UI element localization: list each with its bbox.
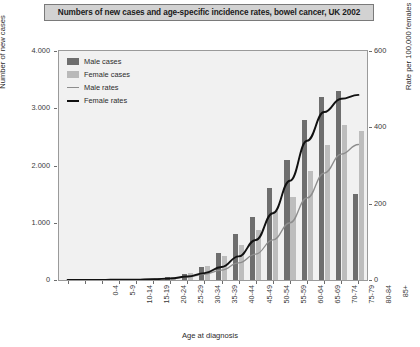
legend-line-female-rates-icon <box>67 100 79 102</box>
x-tick-mark <box>358 281 359 284</box>
x-tick-mark <box>119 281 120 284</box>
x-tick-mark <box>273 281 274 284</box>
legend-swatch-female-cases-icon <box>67 71 79 78</box>
chart-root: Numbers of new cases and age-specific in… <box>0 0 420 347</box>
x-tick-mark <box>256 281 257 284</box>
x-tick-label: 50-54 <box>282 285 291 325</box>
bar-male-cases <box>302 120 307 280</box>
x-tick-label: 30-34 <box>213 285 222 325</box>
x-tick-label: 60-64 <box>316 285 325 325</box>
chart-legend: Male cases Female cases Male rates Femal… <box>67 56 130 108</box>
y-tick-left: 4.000 <box>16 46 50 55</box>
plot-area: Male cases Female cases Male rates Femal… <box>58 50 368 281</box>
x-tick-mark <box>222 281 223 284</box>
chart-title: Numbers of new cases and age-specific in… <box>58 8 360 17</box>
bar-male-cases <box>319 97 324 280</box>
x-tick-label: 55-59 <box>299 285 308 325</box>
bar-male-cases <box>336 91 341 280</box>
bar-female-cases <box>239 245 244 280</box>
x-tick-label: 40-44 <box>247 285 256 325</box>
legend-item-female-rates: Female rates <box>67 95 130 106</box>
x-tick-label: 0-4 <box>111 285 120 325</box>
bar-female-cases <box>359 131 364 280</box>
x-tick-label: 65-69 <box>333 285 342 325</box>
x-tick-label: 20-24 <box>179 285 188 325</box>
bar-male-cases <box>267 188 272 280</box>
y-tick-mark-right <box>369 127 372 128</box>
y-tick-mark-right <box>369 51 372 52</box>
y-tick-mark-left <box>54 166 57 167</box>
line-male-rates <box>68 145 359 280</box>
legend-label-male-cases: Male cases <box>84 57 121 66</box>
bar-female-cases <box>205 266 210 280</box>
bar-male-cases <box>130 279 135 280</box>
x-tick-label: 80-84 <box>384 285 393 325</box>
x-tick-mark <box>324 281 325 284</box>
bar-male-cases <box>216 253 221 280</box>
x-tick-label: 85+ <box>401 285 410 325</box>
x-tick-mark <box>170 281 171 284</box>
bar-male-cases <box>284 160 289 280</box>
y-tick-right: 600 <box>374 46 400 55</box>
x-tick-label: 25-29 <box>196 285 205 325</box>
bar-female-cases <box>325 145 330 280</box>
bar-female-cases <box>222 256 227 280</box>
x-tick-mark <box>204 281 205 284</box>
bar-female-cases <box>171 277 176 280</box>
legend-label-female-cases: Female cases <box>84 70 130 79</box>
bar-male-cases <box>353 194 358 280</box>
bar-male-cases <box>250 217 255 280</box>
x-tick-mark <box>68 281 69 284</box>
y-tick-mark-right <box>369 280 372 281</box>
x-tick-label: 35-39 <box>230 285 239 325</box>
legend-swatch-male-cases-icon <box>67 58 79 65</box>
x-tick-label: 75-79 <box>367 285 376 325</box>
y-axis-right-label: Rate per 100,000 females <box>404 0 413 90</box>
y-tick-mark-right <box>369 204 372 205</box>
x-tick-label: 70-74 <box>350 285 359 325</box>
y-axis-left-label: Number of new cases <box>0 0 7 112</box>
x-tick-label: 15-19 <box>162 285 171 325</box>
y-tick-left: 3.000 <box>16 103 50 112</box>
legend-item-female-cases: Female cases <box>67 69 130 80</box>
x-tick-label: 45-49 <box>265 285 274 325</box>
bar-male-cases <box>148 279 153 280</box>
x-tick-mark <box>102 281 103 284</box>
x-tick-mark <box>85 281 86 284</box>
bar-male-cases <box>182 274 187 280</box>
bar-female-cases <box>256 230 261 280</box>
x-axis-label: Age at diagnosis <box>0 331 420 340</box>
legend-item-male-cases: Male cases <box>67 56 130 67</box>
bar-female-cases <box>290 197 295 280</box>
x-tick-mark <box>307 281 308 284</box>
x-tick-label: 5-9 <box>128 285 137 325</box>
x-tick-mark <box>290 281 291 284</box>
x-tick-mark <box>187 281 188 284</box>
legend-label-female-rates: Female rates <box>84 96 127 105</box>
x-tick-label: 10-14 <box>145 285 154 325</box>
chart-title-box: Numbers of new cases and age-specific in… <box>44 4 374 21</box>
x-tick-mark <box>239 281 240 284</box>
x-tick-mark <box>341 281 342 284</box>
bar-male-cases <box>165 277 170 280</box>
legend-line-male-rates-icon <box>67 87 79 88</box>
y-tick-right: 200 <box>374 199 400 208</box>
bar-male-cases <box>199 267 204 280</box>
bar-male-cases <box>233 234 238 280</box>
bar-female-cases <box>136 279 141 280</box>
x-tick-mark <box>153 281 154 284</box>
bar-female-cases <box>273 211 278 280</box>
y-tick-mark-left <box>54 51 57 52</box>
legend-label-male-rates: Male rates <box>84 83 119 92</box>
legend-item-male-rates: Male rates <box>67 82 130 93</box>
x-tick-mark <box>136 281 137 284</box>
bar-female-cases <box>188 273 193 280</box>
y-tick-left: 1.000 <box>16 218 50 227</box>
bar-female-cases <box>308 171 313 280</box>
y-tick-right: 400 <box>374 122 400 131</box>
line-female-rates <box>68 95 359 280</box>
y-tick-mark-left <box>54 223 57 224</box>
bar-female-cases <box>154 278 159 280</box>
y-tick-left: 0 <box>16 275 50 284</box>
y-tick-right: 0 <box>374 275 400 284</box>
